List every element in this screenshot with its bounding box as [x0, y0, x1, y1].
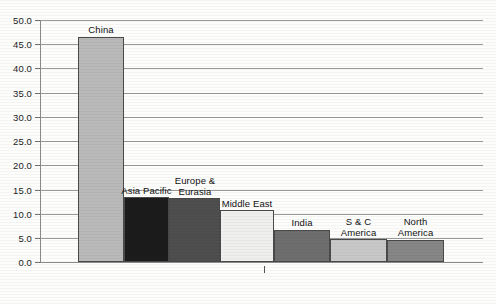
- ytick-label-10: 10.0: [0, 209, 32, 220]
- bar-label-china: China: [78, 24, 124, 35]
- ytick-label-40: 40.0: [0, 63, 32, 74]
- bar-asia-pacific: [124, 197, 169, 262]
- bar-chart: 50.0 45.0 40.0 35.0 30.0 25.0 20.0 15.0 …: [0, 0, 496, 304]
- x-axis-tick: [264, 266, 265, 273]
- bars-layer: China Asia Pacific Europe & Eurasia Midd…: [41, 20, 483, 262]
- ytick-label-5: 5.0: [0, 233, 32, 244]
- bar-label-middle-east: Middle East: [213, 198, 281, 209]
- bar-india: [274, 230, 330, 262]
- ytick-label-25: 25.0: [0, 136, 32, 147]
- bar-middle-east: [220, 210, 274, 262]
- bar-label-india: India: [278, 217, 326, 228]
- ytick-label-50: 50.0: [0, 15, 32, 26]
- bar-label-europe-eurasia-line1: Europe &: [165, 175, 225, 186]
- ytick-label-45: 45.0: [0, 39, 32, 50]
- ytick-label-35: 35.0: [0, 88, 32, 99]
- ytick-label-0: 0.0: [0, 257, 32, 268]
- bar-label-sc-america-line2: America: [330, 227, 387, 238]
- ytick-label-15: 15.0: [0, 185, 32, 196]
- bar-china: [78, 37, 124, 262]
- ytick-label-30: 30.0: [0, 112, 32, 123]
- bar-label-sc-america-line1: S & C: [330, 216, 387, 227]
- x-axis-line: [40, 262, 483, 263]
- bar-label-north-america-line2: America: [387, 227, 444, 238]
- bar-sc-america: [330, 239, 387, 262]
- bar-north-america: [387, 240, 444, 262]
- ytick-label-20: 20.0: [0, 160, 32, 171]
- bar-label-north-america-line1: North: [387, 216, 444, 227]
- bar-label-europe-eurasia-line2: Eurasia: [165, 186, 225, 197]
